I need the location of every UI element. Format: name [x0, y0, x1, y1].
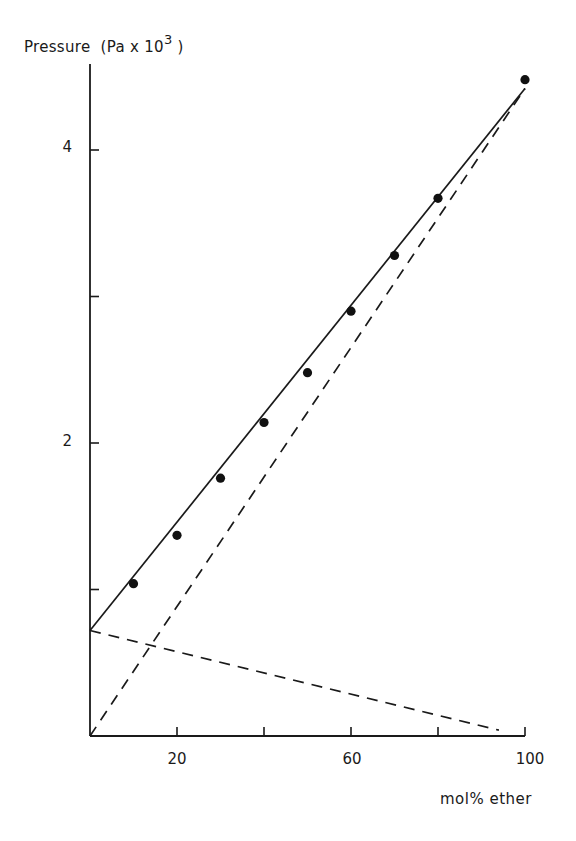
data-point [303, 368, 312, 377]
data-point [129, 579, 138, 588]
solid-line [90, 88, 525, 630]
line-series [90, 88, 525, 736]
data-point [259, 418, 268, 427]
data-point [433, 194, 442, 203]
dashed-line [90, 88, 525, 736]
plot-area [0, 0, 576, 841]
data-point [346, 307, 355, 316]
data-point [172, 531, 181, 540]
data-point [520, 75, 529, 84]
dashed-line [90, 631, 499, 731]
data-point [390, 251, 399, 260]
axes [90, 64, 525, 736]
data-point [216, 474, 225, 483]
